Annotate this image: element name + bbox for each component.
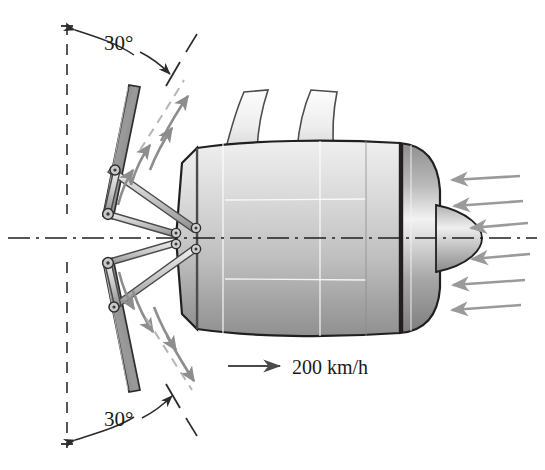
diagram-canvas: 30° 30° 200 km/h	[0, 0, 545, 470]
angle-label-top: 30°	[104, 31, 133, 55]
velocity-label: 200 km/h	[292, 356, 368, 378]
link-upper-horizontal	[106, 211, 176, 237]
angle-label-bottom: 30°	[104, 407, 133, 431]
link-lower-horizontal	[106, 240, 176, 266]
velocity-annotation: 200 km/h	[228, 356, 368, 378]
angle-dimension-top: 30°	[61, 26, 197, 86]
angle-dimension-bottom: 30°	[61, 384, 197, 444]
engine-nacelle-body	[176, 90, 482, 336]
engine-reverser-diagram: 30° 30° 200 km/h	[0, 0, 545, 470]
